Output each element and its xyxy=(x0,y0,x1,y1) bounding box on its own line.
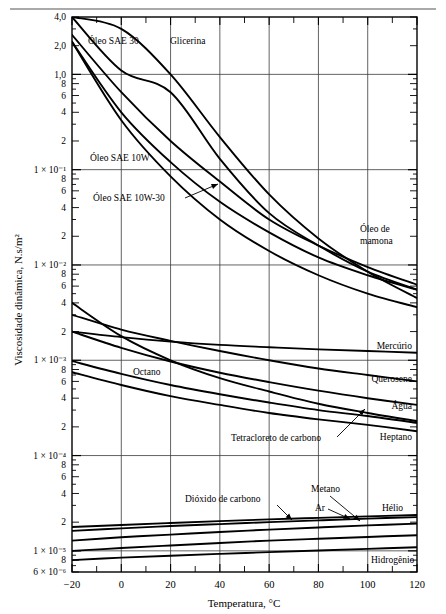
y-axis-title: Viscosidade dinâmica, N.s/m² xyxy=(12,234,24,366)
chart-svg: 4,02,01,086421 × 10⁻¹86421 × 10⁻²86421 ×… xyxy=(0,0,446,614)
svg-text:2: 2 xyxy=(61,231,66,241)
label-oleo-de-mamona-1: Óleo de xyxy=(360,223,390,234)
label-agua: Água xyxy=(391,400,412,411)
viscosity-temperature-chart: 4,02,01,086421 × 10⁻¹86421 × 10⁻²86421 ×… xyxy=(0,0,446,614)
svg-text:0: 0 xyxy=(119,579,124,590)
svg-text:8: 8 xyxy=(61,269,66,279)
svg-text:2: 2 xyxy=(61,517,66,527)
x-axis-title: Temperatura, °C xyxy=(208,597,281,609)
svg-text:−20: −20 xyxy=(64,579,80,590)
svg-text:40: 40 xyxy=(215,579,226,590)
svg-text:6: 6 xyxy=(61,186,66,196)
label-ar: Ar xyxy=(315,503,326,513)
svg-text:8: 8 xyxy=(61,365,66,375)
svg-text:4,0: 4,0 xyxy=(54,12,66,22)
svg-text:6: 6 xyxy=(61,472,66,482)
label-heptano: Heptano xyxy=(380,432,412,442)
svg-text:2: 2 xyxy=(61,327,66,337)
label-oleo-sae-10w: Óleo SAE 10W xyxy=(90,152,150,163)
svg-text:8: 8 xyxy=(61,174,66,184)
svg-text:20: 20 xyxy=(165,579,176,590)
svg-text:6 × 10⁻⁶: 6 × 10⁻⁶ xyxy=(33,567,66,577)
svg-text:60: 60 xyxy=(264,579,275,590)
label-oleo-sae-10w30: Óleo SAE 10W-30 xyxy=(93,192,165,203)
label-oleo-de-mamona-2: mamona xyxy=(360,236,393,246)
svg-text:4: 4 xyxy=(61,107,66,117)
svg-text:6: 6 xyxy=(61,91,66,101)
label-oleo-sae-30: Óleo SAE 30 xyxy=(88,35,139,46)
label-helio: Hélio xyxy=(382,503,403,513)
svg-text:4: 4 xyxy=(61,393,66,403)
svg-text:6: 6 xyxy=(61,377,66,387)
svg-text:100: 100 xyxy=(360,579,376,590)
label-dioxido: Dióxido de carbono xyxy=(185,494,261,504)
svg-text:2: 2 xyxy=(61,136,66,146)
label-querosene: Querosene xyxy=(371,374,412,384)
label-mercurio: Mercúrio xyxy=(377,341,413,351)
svg-text:8: 8 xyxy=(61,79,66,89)
svg-text:4: 4 xyxy=(61,489,66,499)
label-tetracloreto: Tetracloreto de carbono xyxy=(231,433,321,443)
svg-text:80: 80 xyxy=(313,579,324,590)
svg-text:2: 2 xyxy=(61,422,66,432)
svg-text:6: 6 xyxy=(61,281,66,291)
svg-text:8: 8 xyxy=(61,460,66,470)
label-hidrogenio: Hidrogênio xyxy=(371,555,415,565)
label-glicerina: Glicerina xyxy=(170,36,206,46)
svg-text:2,0: 2,0 xyxy=(54,41,66,51)
svg-text:8: 8 xyxy=(61,555,66,565)
label-octano: Octano xyxy=(133,367,161,377)
svg-text:4: 4 xyxy=(61,203,66,213)
label-metano: Metano xyxy=(311,484,340,494)
svg-text:120: 120 xyxy=(409,579,425,590)
svg-text:4: 4 xyxy=(61,298,66,308)
